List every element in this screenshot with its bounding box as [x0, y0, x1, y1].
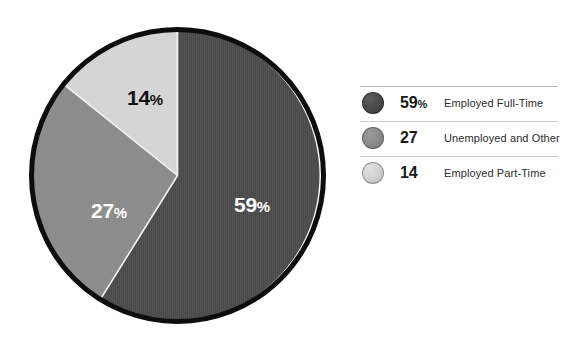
mid-sphere-swatch-icon	[362, 127, 384, 149]
dark-sphere-swatch-icon	[362, 92, 384, 114]
legend-label-employed-full-time: Employed Full-Time	[444, 97, 543, 109]
pie-chart-figure: 59% 27% 14% 59% Employed Full-Time 27 Un…	[0, 0, 564, 349]
legend-value-employed-part-time: 14	[400, 164, 444, 182]
legend-value-unemployed-and-other: 27	[400, 129, 444, 147]
legend-value-employed-full-time: 59%	[400, 94, 444, 112]
legend-item-employed-full-time[interactable]: 59% Employed Full-Time	[360, 86, 558, 121]
legend-item-unemployed-and-other[interactable]: 27 Unemployed and Other	[360, 121, 558, 156]
chart-legend: 59% Employed Full-Time 27 Unemployed and…	[360, 86, 558, 191]
legend-item-employed-part-time[interactable]: 14 Employed Part-Time	[360, 156, 558, 191]
light-sphere-swatch-icon	[362, 162, 384, 184]
legend-label-employed-part-time: Employed Part-Time	[444, 167, 546, 179]
pie-chart-svg: 59% 27% 14%	[24, 22, 331, 329]
pie-chart: 59% 27% 14%	[24, 22, 331, 329]
legend-label-unemployed-and-other: Unemployed and Other	[444, 132, 560, 144]
